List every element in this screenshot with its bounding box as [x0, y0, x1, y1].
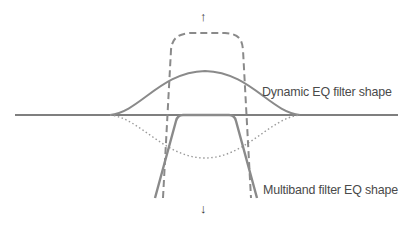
- boost-arrow-icon: ↑: [200, 10, 207, 23]
- eq-diagram: [0, 0, 410, 232]
- multiband-cut-shape: [155, 115, 257, 198]
- multiband-label: Multiband filter EQ shape: [263, 182, 398, 197]
- dynamic-eq-cut-curve: [110, 115, 300, 158]
- dynamic-eq-label: Dynamic EQ filter shape: [262, 84, 392, 99]
- cut-arrow-icon: ↓: [200, 202, 207, 215]
